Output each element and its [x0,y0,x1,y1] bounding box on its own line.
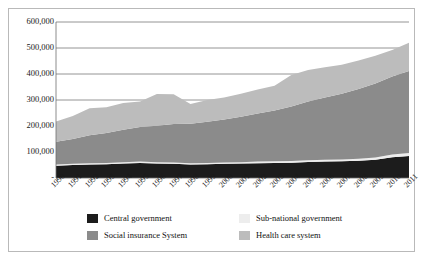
legend-label-sub-national-government: Sub-national government [256,213,342,223]
legend-item-social-insurance-system: Social insurance System [87,228,187,242]
legend-item-health-care-system: Health care system [239,228,321,242]
figure-frame: -100,000200,000300,000400,000500,000600,… [8,8,415,252]
legend-swatch-sub-national-government [239,214,250,223]
legend-swatch-health-care-system [239,231,250,240]
legend-row-4: Health care system [239,228,321,242]
legend-swatch-central-government [87,214,98,223]
legend-item-central-government: Central government [87,211,172,225]
legend-label-health-care-system: Health care system [256,230,321,240]
plot-area: -100,000200,000300,000400,000500,000600,… [9,9,416,209]
legend-swatch-social-insurance-system [87,231,98,240]
chart-legend: Central government Sub-national governme… [87,211,387,245]
legend-row-2: Sub-national government [239,211,342,225]
legend-label-central-government: Central government [104,213,172,223]
legend-label-social-insurance-system: Social insurance System [104,230,187,240]
legend-row-3: Social insurance System [87,228,187,242]
legend-row-1: Central government [87,211,172,225]
legend-item-sub-national-government: Sub-national government [239,211,342,225]
